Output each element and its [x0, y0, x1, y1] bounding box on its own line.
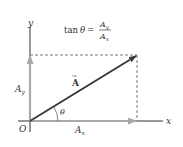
- theta-arc: [54, 107, 58, 121]
- svg-text:Ay: Ay: [99, 20, 110, 31]
- ay-label: Ay: [14, 84, 26, 96]
- x-axis-label: x: [166, 116, 171, 126]
- vector-diagram: y x O θ → A Ay Ax tanθ= Ay Ax: [0, 0, 183, 147]
- y-axis-label: y: [27, 18, 34, 28]
- svg-text:tanθ=: tanθ=: [64, 25, 94, 35]
- svg-text:Ax: Ax: [99, 32, 110, 42]
- origin-label: O: [19, 124, 27, 134]
- theta-label: θ: [60, 108, 65, 117]
- tan-theta-formula: tanθ= Ay Ax: [64, 20, 111, 42]
- vector-a-label: A: [71, 78, 80, 88]
- vector-a-arrow: [30, 56, 136, 121]
- ax-label: Ax: [74, 125, 86, 136]
